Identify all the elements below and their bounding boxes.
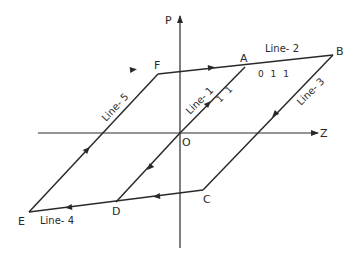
line-2-index: 0 1 1 (258, 69, 291, 79)
arrow-icon (208, 64, 216, 71)
arrow-icon (153, 193, 161, 200)
point-e-label: E (18, 215, 25, 228)
point-c-label: C (203, 193, 211, 206)
line-4-label: Line- 4 (40, 215, 74, 226)
arrow-icon (130, 66, 138, 73)
line-1-index: 1 1 (214, 83, 235, 104)
point-f-label: F (154, 59, 160, 72)
z-axis-label: Z (320, 127, 328, 140)
point-d-label: D (112, 205, 120, 218)
line-1-label: Line- 1 (184, 85, 216, 117)
direction-arrows (65, 64, 279, 211)
d-o-segment (116, 133, 180, 202)
line-1 (180, 67, 245, 133)
point-a-label: A (240, 52, 248, 65)
hysteresis-diagram: P Z O A B C D E F Line- 1 1 1 Line- 2 0 … (0, 0, 360, 261)
arrow-icon (145, 163, 154, 172)
line-3-label: Line- 3 (295, 76, 327, 108)
line-5 (29, 74, 158, 212)
origin-label: O (182, 136, 191, 149)
p-axis-label: P (165, 14, 172, 27)
point-b-label: B (336, 45, 344, 58)
line-2-label: Line- 2 (265, 43, 299, 54)
arrow-icon (65, 204, 73, 211)
